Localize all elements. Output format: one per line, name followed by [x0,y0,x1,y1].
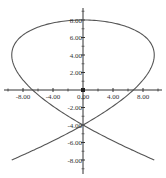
y-tick-label: 4.00 [70,52,83,60]
x-tick-label: 8.00 [137,93,150,101]
y-tick-label: 8.00 [70,17,83,25]
x-tick-label: -8.00 [16,93,31,101]
x-tick-label: -4.00 [46,93,61,101]
x-tick-label: 0.00 [77,93,90,101]
x-tick-label: 4.00 [107,93,120,101]
lissajous-chart: -8.00-4.000.004.008.008.006.004.002.00-2… [0,0,166,178]
y-tick-label: 6.00 [70,34,83,42]
y-tick-label: -6.00 [67,139,82,147]
y-tick-label: -4.00 [67,122,82,130]
chart-container: -8.00-4.000.004.008.008.006.004.002.00-2… [0,0,166,178]
origin-marker [81,88,85,92]
y-tick-label: 2.00 [70,69,83,77]
y-tick-label: -2.00 [67,104,82,112]
y-tick-label: -8.00 [67,157,82,165]
